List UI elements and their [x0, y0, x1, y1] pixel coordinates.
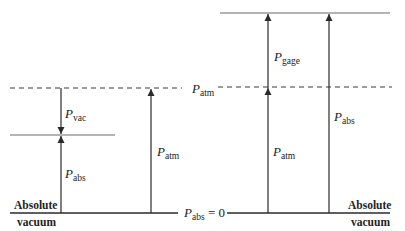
absolute-vacuum-right-line1: Absolute: [348, 200, 391, 212]
label-p-vac: Pvac: [65, 107, 86, 124]
label-p-abs-zero-sub: abs: [192, 212, 205, 222]
absolute-vacuum-left-line1: Absolute: [14, 200, 57, 212]
label-p-atm-left-base: P: [157, 144, 165, 159]
label-p-abs-right: Pabs: [334, 110, 355, 127]
label-p-gage-base: P: [274, 49, 282, 64]
absolute-vacuum-left-line2: vacuum: [17, 217, 56, 229]
label-p-atm-right-base: P: [273, 144, 281, 159]
label-p-gage-sub: gage: [282, 56, 300, 66]
label-p-abs-right-base: P: [334, 109, 342, 124]
label-p-atm-right-sub: atm: [281, 151, 295, 161]
label-p-abs-zero-suffix: = 0: [205, 205, 225, 220]
label-p-vac-sub: vac: [73, 113, 86, 123]
label-p-atm-center-sub: atm: [200, 88, 214, 98]
label-p-abs-zero: Pabs = 0: [182, 206, 227, 223]
label-p-vac-base: P: [65, 106, 73, 121]
label-p-atm-left-sub: atm: [165, 151, 179, 161]
label-p-abs-left: Pabs: [65, 167, 86, 184]
label-p-atm-center-base: P: [192, 81, 200, 96]
label-p-abs-left-base: P: [65, 166, 73, 181]
label-p-atm-right: Patm: [273, 145, 295, 162]
absolute-vacuum-right-line2: vacuum: [351, 217, 390, 229]
label-p-atm-center: Patm: [192, 82, 214, 99]
label-p-abs-zero-base: P: [184, 205, 192, 220]
label-p-abs-left-sub: abs: [73, 173, 86, 183]
label-p-atm-left: Patm: [157, 145, 179, 162]
label-p-abs-right-sub: abs: [342, 116, 355, 126]
label-p-gage: Pgage: [274, 50, 300, 67]
